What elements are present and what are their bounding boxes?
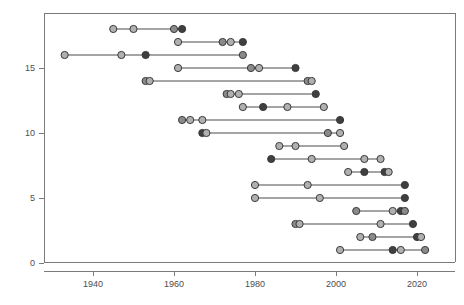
data-point xyxy=(61,51,68,58)
x-tick-label: 1980 xyxy=(245,279,265,289)
data-point xyxy=(422,246,429,253)
data-point xyxy=(170,25,177,32)
data-point xyxy=(227,90,234,97)
data-point xyxy=(110,25,117,32)
y-tick-label: 15 xyxy=(25,63,35,73)
data-point xyxy=(389,207,396,214)
data-point xyxy=(235,90,242,97)
data-point xyxy=(361,155,368,162)
data-point xyxy=(174,38,181,45)
data-point xyxy=(353,207,360,214)
series-row xyxy=(142,77,315,84)
data-point xyxy=(260,103,267,110)
data-point xyxy=(179,116,186,123)
data-point xyxy=(268,155,275,162)
series-row xyxy=(174,38,246,45)
data-point xyxy=(247,64,254,71)
data-point xyxy=(397,246,404,253)
y-tick-label: 0 xyxy=(30,258,35,268)
data-point xyxy=(227,38,234,45)
series-row xyxy=(174,64,299,71)
x-tick-label: 2000 xyxy=(326,279,346,289)
data-point xyxy=(239,51,246,58)
chart-container: 051015 19401960198020002020 xyxy=(0,0,464,305)
data-point xyxy=(369,233,376,240)
data-point xyxy=(251,194,258,201)
data-point xyxy=(401,194,408,201)
series-row xyxy=(110,25,186,32)
series-row xyxy=(357,233,425,240)
data-point xyxy=(304,181,311,188)
data-point xyxy=(146,77,153,84)
data-point xyxy=(239,103,246,110)
data-point xyxy=(341,142,348,149)
series-row xyxy=(268,155,385,162)
data-point xyxy=(401,181,408,188)
data-point xyxy=(179,25,186,32)
data-point xyxy=(239,38,246,45)
data-point xyxy=(336,246,343,253)
series-row xyxy=(292,220,417,227)
plot-panel-border xyxy=(44,13,455,262)
data-point xyxy=(336,129,343,136)
data-point xyxy=(292,142,299,149)
data-point xyxy=(417,233,424,240)
data-point xyxy=(219,38,226,45)
data-point xyxy=(308,77,315,84)
data-point xyxy=(199,116,206,123)
data-point xyxy=(385,168,392,175)
data-point xyxy=(296,220,303,227)
data-point xyxy=(316,194,323,201)
data-point xyxy=(142,51,149,58)
x-axis: 19401960198020002020 xyxy=(44,271,455,289)
x-tick-label: 1960 xyxy=(164,279,184,289)
data-point xyxy=(345,168,352,175)
y-axis: 051015 xyxy=(25,63,44,268)
data-point xyxy=(336,116,343,123)
x-tick-label: 1940 xyxy=(83,279,103,289)
series-row xyxy=(251,194,408,201)
data-point xyxy=(324,129,331,136)
data-point xyxy=(401,207,408,214)
y-tick-label: 5 xyxy=(30,193,35,203)
series-row xyxy=(199,129,344,136)
data-point xyxy=(389,246,396,253)
series-layer xyxy=(61,25,429,253)
data-point xyxy=(118,51,125,58)
data-point xyxy=(312,90,319,97)
data-point xyxy=(409,220,416,227)
scatter-plot: 051015 19401960198020002020 xyxy=(0,0,464,305)
series-row xyxy=(353,207,409,214)
data-point xyxy=(308,155,315,162)
data-point xyxy=(174,64,181,71)
data-point xyxy=(377,155,384,162)
data-point xyxy=(251,181,258,188)
series-row xyxy=(336,246,428,253)
data-point xyxy=(357,233,364,240)
series-row xyxy=(179,116,344,123)
series-row xyxy=(345,168,393,175)
series-row xyxy=(239,103,327,110)
data-point xyxy=(276,142,283,149)
data-point xyxy=(284,103,291,110)
data-point xyxy=(320,103,327,110)
data-point xyxy=(377,220,384,227)
series-row xyxy=(223,90,319,97)
series-row xyxy=(61,51,246,58)
x-tick-label: 2020 xyxy=(407,279,427,289)
data-point xyxy=(203,129,210,136)
data-point xyxy=(187,116,194,123)
data-point xyxy=(292,64,299,71)
data-point xyxy=(255,64,262,71)
y-tick-label: 10 xyxy=(25,128,35,138)
data-point xyxy=(361,168,368,175)
data-point xyxy=(130,25,137,32)
series-row xyxy=(276,142,348,149)
series-row xyxy=(251,181,408,188)
panel-frame xyxy=(44,13,455,262)
